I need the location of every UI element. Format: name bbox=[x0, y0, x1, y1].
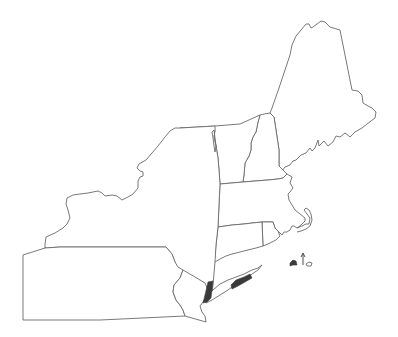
highlight-marthas-vineyard bbox=[290, 260, 297, 266]
state-connecticut bbox=[212, 222, 263, 265]
state-maine bbox=[270, 21, 376, 171]
nantucket-island bbox=[306, 262, 312, 266]
arrow-icon bbox=[301, 253, 305, 265]
northeast-map bbox=[0, 0, 398, 337]
state-pennsylvania bbox=[23, 247, 185, 320]
